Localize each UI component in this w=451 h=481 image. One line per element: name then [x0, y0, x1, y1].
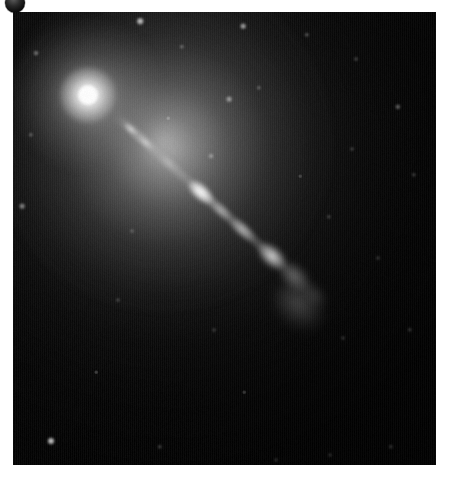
star — [166, 116, 170, 120]
star — [130, 229, 134, 233]
star — [226, 96, 232, 102]
astronomy-image — [13, 12, 436, 465]
star — [389, 445, 393, 449]
star — [412, 173, 416, 177]
star — [274, 458, 278, 462]
star — [341, 336, 345, 340]
star — [240, 23, 246, 29]
star — [158, 445, 162, 449]
star — [376, 256, 380, 260]
star — [328, 453, 332, 457]
star — [395, 104, 400, 109]
star — [209, 154, 214, 159]
star — [212, 328, 216, 332]
image-page — [0, 0, 451, 481]
star — [257, 86, 261, 90]
star — [327, 215, 331, 219]
star — [47, 437, 54, 444]
star — [408, 328, 412, 332]
star — [137, 18, 144, 25]
star — [116, 298, 120, 302]
star-field — [13, 12, 436, 465]
star — [242, 390, 246, 394]
star — [354, 57, 358, 61]
star — [34, 51, 39, 56]
star — [180, 45, 184, 49]
star — [350, 147, 354, 151]
star — [298, 174, 302, 178]
star — [94, 370, 98, 374]
star — [19, 203, 25, 209]
star — [305, 33, 309, 37]
star — [29, 133, 33, 137]
